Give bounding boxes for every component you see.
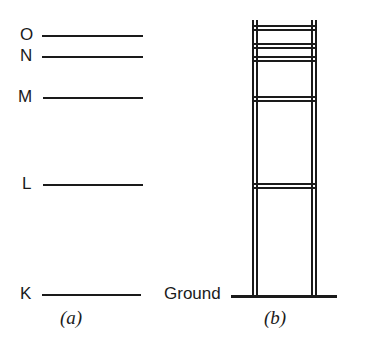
panel-b-caption: (b) [264, 308, 286, 327]
panel-a-level-lines [42, 36, 143, 295]
energy-level-M-label: M [18, 88, 32, 105]
energy-level-O-label: O [20, 26, 33, 43]
panel-a-caption: (a) [60, 308, 82, 327]
panel-b-ladder-rungs [253, 26, 316, 188]
energy-level-ladder-figure: ONMLK Ground (a) (b) [0, 0, 365, 349]
energy-level-L-label: L [22, 175, 31, 192]
energy-level-K-label: K [20, 285, 31, 302]
energy-level-N-label: N [20, 47, 32, 64]
ground-label: Ground [164, 285, 221, 302]
